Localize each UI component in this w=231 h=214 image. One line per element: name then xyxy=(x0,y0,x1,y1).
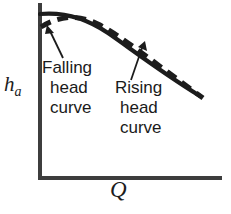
y-axis-label-subscript: a xyxy=(15,84,22,99)
rising-head-curve-label-line2: head xyxy=(115,98,162,118)
falling-head-curve-label-line2: head xyxy=(42,78,92,98)
x-axis-label: Q xyxy=(110,178,127,201)
falling-head-curve-label: Falling head curve xyxy=(42,58,92,118)
falling-head-curve-label-line1: Falling xyxy=(42,58,92,78)
falling-head-leader-line xyxy=(50,31,63,58)
y-axis-label: ha xyxy=(4,74,22,99)
rising-head-curve-label-line3: curve xyxy=(115,118,162,138)
head-capacity-curve-figure: ha Q Falling head curve Rising head curv… xyxy=(0,0,231,214)
falling-head-curve-label-line3: curve xyxy=(42,98,92,118)
rising-head-curve-label-line1: Rising xyxy=(115,78,162,98)
y-axis-label-base: h xyxy=(4,72,15,96)
rising-head-curve-label: Rising head curve xyxy=(115,78,162,138)
